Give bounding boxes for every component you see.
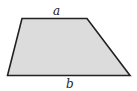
trapezoid-shape [8, 19, 131, 76]
trapezoid-figure: a b [0, 0, 137, 91]
label-top-a: a [53, 4, 60, 18]
label-bottom-b: b [66, 77, 74, 91]
